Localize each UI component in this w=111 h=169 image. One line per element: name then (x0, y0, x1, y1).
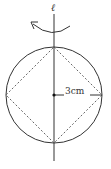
center-point (52, 93, 55, 96)
rotation-arrow-icon (33, 24, 70, 33)
axis-label: ℓ (51, 2, 55, 13)
radius-label: 3cm (65, 86, 85, 96)
rotation-diagram: ℓ 3cm (0, 0, 111, 169)
